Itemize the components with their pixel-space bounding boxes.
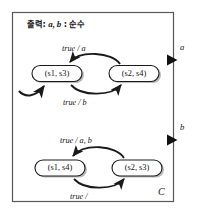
port-b-label: b <box>180 122 184 132</box>
transition-upper-top-label: true / a <box>62 44 86 53</box>
state-s1-s3-label: (s1, s3) <box>32 70 82 78</box>
header-type: 순수 <box>69 19 85 29</box>
transition-upper-bottom-label: true / b <box>63 98 87 107</box>
component-label: C <box>158 186 165 197</box>
diagram-vector-layer <box>0 0 201 215</box>
header-separator: : <box>64 19 67 29</box>
header-colon: : <box>43 19 46 29</box>
header-signals: a, b <box>48 19 61 29</box>
state-s2-s3-label: (s2, s3) <box>112 164 162 172</box>
port-a-label: a <box>180 42 184 52</box>
state-machine-diagram: 출력: a, b : 순수 (s1, s3) (s2, s4) true / a… <box>0 0 201 215</box>
transition-lower-top-label: true / a, b <box>60 136 92 145</box>
transition-lower-bottom-label: true / <box>70 192 88 201</box>
state-s2-s4-label: (s2, s4) <box>109 70 159 78</box>
output-declaration-header: 출력: a, b : 순수 <box>27 20 85 29</box>
state-s1-s4-label: (s1, s4) <box>35 164 85 172</box>
header-prefix: 출력 <box>27 19 43 29</box>
